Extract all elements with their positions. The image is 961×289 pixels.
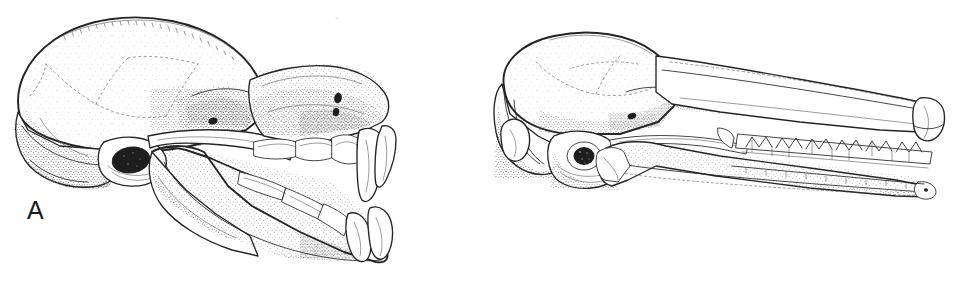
upper-incisor-a [375,126,396,187]
panel-b-skull-illustration: B [480,0,961,289]
skull-b-drawing [480,0,961,289]
comparative-skull-figure: A [0,0,961,289]
mental-foramen-b [924,188,928,191]
panel-label-a: A [27,198,44,223]
rostrum-b [656,56,945,141]
skull-a-drawing [0,0,480,289]
upper-molar-a-2 [296,138,334,161]
scan-speck [335,16,338,19]
premaxilla-b [913,98,945,141]
lower-incisor-a [368,207,393,259]
panel-a-skull-illustration: A [0,0,480,289]
upper-molar-a-1 [254,139,298,159]
